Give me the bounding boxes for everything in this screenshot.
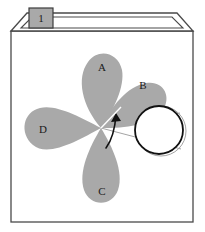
figure-canvas: 1 A B C D xyxy=(0,0,205,232)
petal-label-C: C xyxy=(98,185,105,197)
petal-label-D: D xyxy=(39,123,47,135)
figure-root: 1 A B C D xyxy=(0,0,205,232)
roller-circle xyxy=(135,106,183,154)
petal-label-B: B xyxy=(139,79,146,91)
label-tab-text: 1 xyxy=(38,12,44,24)
petal-label-A: A xyxy=(98,61,106,73)
